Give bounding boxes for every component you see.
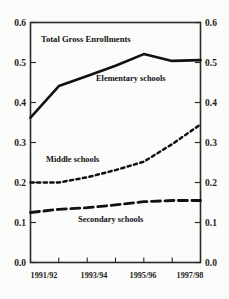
y-tick-label-6: 0.0 [14, 258, 26, 268]
x-tick-label-2: 1995/96 [130, 271, 157, 280]
x-tick-label-1: 1993/94 [81, 271, 108, 280]
y-right-label-1: 0.5 [205, 58, 217, 68]
chart-background [0, 0, 229, 299]
y-tick-label-5: 0.1 [14, 218, 26, 228]
y-tick-label-1: 0.5 [14, 58, 26, 68]
elementary-series-label: Elementary schools [96, 74, 166, 83]
middle-series-label: Middle schools [46, 155, 100, 164]
y-right-label-5: 0.1 [205, 218, 217, 228]
y-right-label-3: 0.3 [205, 138, 217, 148]
y-tick-label-2: 0.4 [14, 98, 26, 108]
y-right-label-4: 0.2 [205, 178, 217, 188]
chart-title: Total Gross Enrollments [41, 34, 131, 44]
enrollment-line-chart: 0.6 0.5 0.4 0.3 0.2 0.1 0.0 0.6 0.5 0.4 … [0, 0, 229, 299]
y-tick-label-3: 0.3 [14, 138, 26, 148]
y-right-label-0: 0.6 [205, 18, 217, 28]
y-tick-label-0: 0.6 [14, 18, 26, 28]
x-tick-label-0: 1991/92 [31, 271, 58, 280]
y-tick-label-4: 0.2 [14, 178, 26, 188]
chart-figure: 0.6 0.5 0.4 0.3 0.2 0.1 0.0 0.6 0.5 0.4 … [0, 0, 229, 299]
secondary-series-label: Secondary schools [78, 215, 144, 224]
y-right-label-6: 0.0 [205, 258, 217, 268]
x-tick-label-3: 1997/98 [177, 271, 204, 280]
y-right-label-2: 0.4 [205, 98, 217, 108]
